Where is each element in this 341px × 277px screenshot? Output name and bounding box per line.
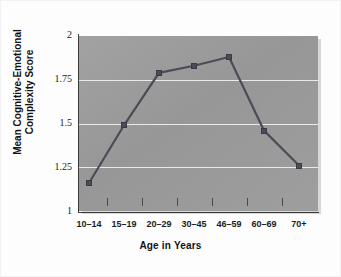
x-tick-label-46-59: 46–59 — [216, 219, 241, 229]
y-tick-label-1.5: 1.5 — [0, 117, 72, 128]
series-line — [79, 36, 318, 211]
data-point-1 — [121, 122, 127, 128]
y-axis-title-line1: Mean Cognitive-Emotional — [12, 2, 24, 182]
y-axis-title-line2: Complexity Score — [24, 2, 36, 182]
x-axis-title: Age in Years — [0, 240, 341, 251]
data-point-3 — [191, 63, 197, 69]
x-tick-label-70plus: 70+ — [291, 219, 306, 229]
y-tick-label-1.75: 1.75 — [0, 73, 72, 84]
chart-figure: 2 1.75 1.5 1.25 1 10–14 15–19 20–29 30–4… — [0, 0, 341, 277]
x-tick-label-30-45: 30–45 — [181, 219, 206, 229]
x-tick-label-10-14: 10–14 — [76, 219, 101, 229]
data-point-4 — [226, 54, 232, 60]
x-axis-line — [78, 212, 319, 213]
data-point-0 — [86, 180, 92, 186]
y-axis-title: Mean Cognitive-Emotional Complexity Scor… — [12, 2, 36, 182]
x-tick-label-20-29: 20–29 — [146, 219, 171, 229]
x-tick-label-60-69: 60–69 — [251, 219, 276, 229]
y-tick-label-1: 1 — [0, 205, 72, 216]
data-point-2 — [156, 70, 162, 76]
data-point-6 — [296, 163, 302, 169]
y-tick-label-1.25: 1.25 — [0, 161, 72, 172]
data-point-5 — [261, 128, 267, 134]
x-tick-label-15-19: 15–19 — [111, 219, 136, 229]
y-tick-label-2: 2 — [0, 29, 72, 40]
y-axis-line — [78, 34, 79, 213]
